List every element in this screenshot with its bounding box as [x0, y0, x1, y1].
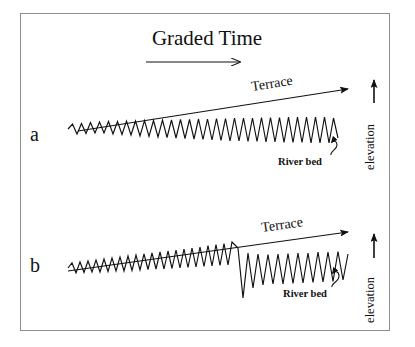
panel-a-letter: a — [30, 123, 39, 145]
panel-a-terrace-label: Terrace — [250, 73, 294, 94]
panel-a-river-bed-profile — [68, 117, 338, 143]
figure-title: Graded Time — [152, 26, 262, 50]
panel-b-letter: b — [30, 254, 40, 276]
panel-b-terrace-label: Terrace — [260, 214, 303, 235]
panel-a-riverbed-pointer — [331, 141, 337, 155]
panel-a-riverbed-label: River bed — [278, 156, 322, 167]
panel-b-elevation-label: elevation — [363, 276, 377, 323]
diagram-canvas: Graded Time a Terrace River bed elevatio… — [0, 0, 415, 347]
panel-a-elevation-label: elevation — [363, 123, 377, 170]
panel-b-riverbed-label: River bed — [283, 288, 327, 299]
figure-root: Graded Time a Terrace River bed elevatio… — [0, 0, 415, 347]
panel-a: a Terrace River bed elevation — [30, 73, 377, 170]
panel-b: b Terrace River bed elevation — [30, 214, 377, 323]
